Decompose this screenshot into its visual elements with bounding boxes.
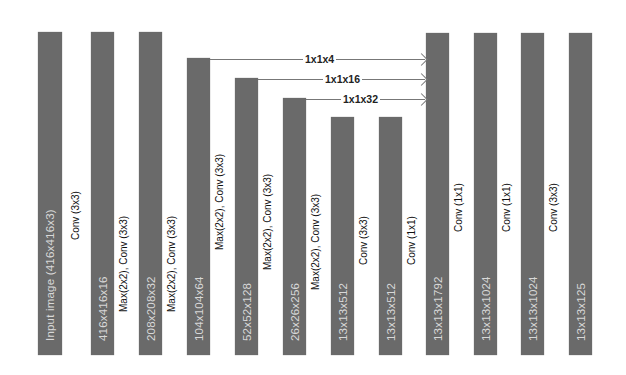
layer-bar: 13x13x1024	[521, 33, 544, 355]
operation-label: Max(2x2), Conv (3x3)	[166, 216, 178, 312]
operation-label: Conv (1x1)	[406, 216, 418, 265]
layer-label: 208x208x32	[144, 276, 158, 341]
layer-label: 52x52x128	[240, 283, 254, 341]
operation-label: Max(2x2), Conv (3x3)	[214, 154, 226, 250]
layer-label: 13x13x1024	[526, 276, 540, 341]
layer-label: Input image (416x416x3)	[43, 209, 57, 341]
layer-bar: 13x13x125	[569, 33, 592, 355]
yolo-architecture-diagram: Input image (416x416x3)416x416x16208x208…	[0, 0, 626, 375]
operation-label: Conv (3x3)	[358, 216, 370, 265]
layer-label: 13x13x1024	[479, 276, 493, 341]
layer-label: 13x13x512	[384, 283, 398, 341]
layer-label: 104x104x64	[192, 276, 206, 341]
layer-bar: 13x13x512	[331, 117, 354, 355]
operation-label: Conv (3x3)	[548, 183, 560, 232]
skip-connection-label: 1x1x4	[303, 53, 336, 65]
layer-label: 13x13x1792	[431, 276, 445, 341]
layer-label: 13x13x512	[336, 283, 350, 341]
operation-label: Max(2x2), Conv (3x3)	[310, 194, 322, 290]
layer-bar: 13x13x512	[379, 117, 402, 355]
operation-label: Conv (3x3)	[70, 191, 82, 240]
layer-label: 26x26x256	[288, 283, 302, 341]
layer-bar: Input image (416x416x3)	[38, 32, 62, 355]
operation-label: Max(2x2), Conv (3x3)	[262, 174, 274, 270]
layer-label: 416x416x16	[96, 276, 110, 341]
layer-bar: 208x208x32	[139, 32, 162, 355]
operation-label: Max(2x2), Conv (3x3)	[118, 216, 130, 312]
layer-bar: 13x13x1024	[474, 33, 497, 355]
layer-bar: 52x52x128	[235, 78, 258, 355]
operation-label: Conv (1x1)	[453, 183, 465, 232]
skip-connection-label: 1x1x32	[341, 93, 380, 105]
layer-bar: 104x104x64	[187, 58, 210, 355]
operation-label: Conv (1x1)	[501, 183, 513, 232]
layer-bar: 13x13x1792	[426, 33, 449, 355]
layer-bar: 26x26x256	[283, 98, 306, 355]
layer-bar: 416x416x16	[91, 32, 114, 355]
skip-connection-label: 1x1x16	[323, 73, 362, 85]
layer-label: 13x13x125	[574, 283, 588, 341]
